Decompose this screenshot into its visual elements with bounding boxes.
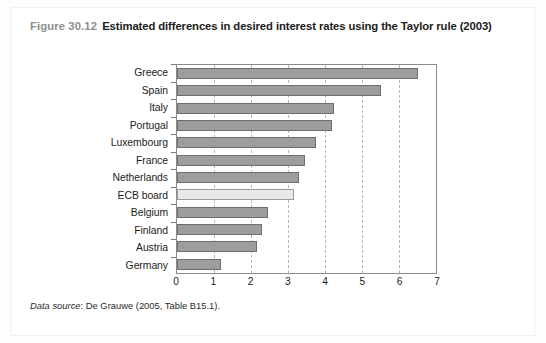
bar-row [177, 82, 436, 99]
category-label: Netherlands [30, 169, 176, 187]
bar-row [177, 100, 436, 117]
x-tick-label: 6 [397, 276, 403, 287]
category-label: Portugal [30, 117, 176, 135]
bar [177, 137, 316, 148]
x-tick-label: 2 [248, 276, 254, 287]
bar-row [177, 204, 436, 221]
chart-area: GreeceSpainItalyPortugalLuxembourgFrance… [30, 58, 500, 288]
figure-caption: Figure 30.12Estimated differences in des… [30, 20, 520, 40]
category-label: Belgium [30, 204, 176, 222]
bar [177, 241, 257, 252]
figure-title: Estimated differences in desired interes… [102, 20, 492, 32]
source-text: : De Grauwe (2005, Table B15.1). [81, 300, 221, 311]
category-label: Germany [30, 257, 176, 275]
bar [177, 85, 381, 96]
x-tick-label: 0 [173, 276, 179, 287]
bar-row [177, 134, 436, 151]
bar-row [177, 238, 436, 255]
x-tick-label: 3 [285, 276, 291, 287]
category-label: France [30, 152, 176, 170]
bar-row [177, 221, 436, 238]
bar-row [177, 186, 436, 203]
bar-series [177, 65, 436, 273]
source-label: Data source [30, 300, 81, 311]
bar-row [177, 152, 436, 169]
source-note: Data source: De Grauwe (2005, Table B15.… [30, 300, 220, 311]
bar-row [177, 169, 436, 186]
bar-row [177, 256, 436, 273]
category-label: Italy [30, 99, 176, 117]
category-label: Luxembourg [30, 134, 176, 152]
category-label: ECB board [30, 187, 176, 205]
figure-number: Figure 30.12 [30, 20, 97, 32]
x-tick-label: 7 [434, 276, 440, 287]
bar [177, 259, 221, 270]
x-axis-labels: 01234567 [176, 276, 437, 292]
bar [177, 155, 305, 166]
category-label: Spain [30, 82, 176, 100]
bar [177, 68, 418, 79]
bar [177, 172, 299, 183]
category-label: Greece [30, 64, 176, 82]
bar [177, 224, 262, 235]
bar-row [177, 65, 436, 82]
figure-page: Figure 30.12Estimated differences in des… [0, 0, 546, 343]
x-tick-label: 4 [322, 276, 328, 287]
bar [177, 189, 294, 200]
bar [177, 120, 332, 131]
bar-row [177, 117, 436, 134]
bar [177, 207, 268, 218]
bar [177, 103, 334, 114]
category-label: Finland [30, 222, 176, 240]
category-axis-labels: GreeceSpainItalyPortugalLuxembourgFrance… [30, 64, 176, 274]
x-tick-label: 1 [210, 276, 216, 287]
category-label: Austria [30, 239, 176, 257]
x-tick-label: 5 [360, 276, 366, 287]
plot-area [176, 64, 437, 274]
